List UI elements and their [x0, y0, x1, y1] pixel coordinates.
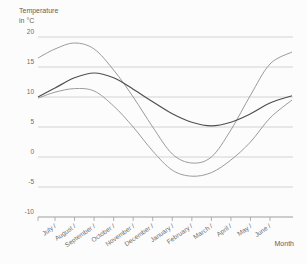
y-tick-label-0: 0 — [10, 148, 34, 155]
y-tick-label-15: 15 — [10, 58, 34, 65]
temperature-curves — [38, 43, 292, 176]
y-axis-title-line1: Temperature — [19, 6, 58, 16]
plot-area — [0, 0, 307, 264]
y-axis-title-line2: in °C — [19, 16, 58, 26]
gridlines — [38, 37, 293, 217]
x-axis-title: Month — [275, 240, 294, 247]
y-tick-label--10: -10 — [10, 208, 34, 215]
curve-dark_curve_smooth — [38, 73, 292, 126]
curve-light_curve_high_amplitude — [38, 43, 292, 163]
curve-light_curve_low_amplitude — [38, 88, 292, 176]
y-tick-label-5: 5 — [10, 118, 34, 125]
temperature-chart: Temperature in °C 20151050-5-10 July /Au… — [0, 0, 307, 264]
y-axis-title: Temperature in °C — [19, 6, 58, 26]
y-tick-label-10: 10 — [10, 88, 34, 95]
y-tick-label--5: -5 — [10, 178, 34, 185]
y-tick-label-20: 20 — [10, 28, 34, 35]
axis-ticks — [38, 217, 270, 221]
